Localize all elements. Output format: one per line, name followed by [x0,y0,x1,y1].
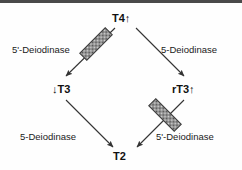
inhibition-block-rt3-to-t2-icon [149,99,182,132]
edge-label-bottom-right: 5'-Deiodinase [156,131,214,142]
edge-label-bottom-left: 5-Deiodinase [20,131,76,142]
edge-label-top-right: 5-Deiodinase [161,44,217,55]
node-t2: T2 [113,150,126,162]
node-rt3: rT3↑ [172,83,195,95]
edge-label-top-left: 5'-Deiodinase [12,44,70,55]
pathway-canvas [0,3,242,170]
diagram-figure: T4↑ ↓T3 rT3↑ T2 5'-Deiodinase 5-Deiodina… [0,0,242,170]
inhibition-block-t4-to-t3-icon [80,28,113,61]
node-t4: T4↑ [112,12,130,24]
node-t3: ↓T3 [52,83,70,95]
